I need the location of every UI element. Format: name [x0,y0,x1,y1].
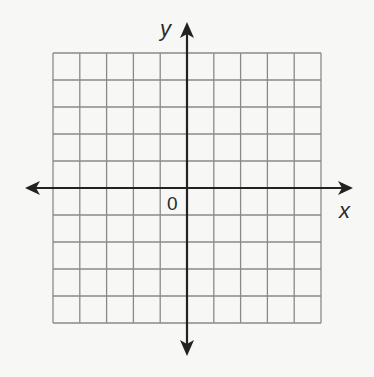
coordinate-plane [0,0,374,377]
x-axis-label: x [339,200,350,222]
origin-label: 0 [167,194,178,213]
x-axis [25,181,353,195]
y-axis-label: y [160,18,171,40]
